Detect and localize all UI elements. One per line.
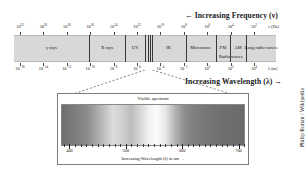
frequency-tick-label: 104 — [228, 24, 234, 29]
spectrum-bar: γ raysX raysUVIRMicrowaveFMAMLong radio … — [14, 35, 276, 62]
band-divider — [216, 35, 217, 62]
band-divider — [148, 35, 149, 62]
visible-minor-tick — [109, 144, 110, 147]
band-label-long-radio-waves: Long radio waves — [244, 45, 277, 50]
visible-minor-tick — [120, 144, 121, 147]
band-divider — [150, 35, 151, 62]
visible-minor-tick — [75, 144, 76, 147]
frequency-tick-label: 1022 — [16, 24, 23, 29]
visible-minor-tick — [86, 144, 87, 147]
visible-spectrum-gradient — [61, 104, 245, 146]
visible-minor-tick — [165, 144, 166, 147]
visible-minor-tick — [205, 144, 206, 147]
visible-minor-tick — [154, 144, 155, 147]
frequency-tick-label: 1016 — [86, 24, 93, 29]
visible-minor-tick — [210, 144, 211, 147]
visible-minor-tick — [227, 144, 228, 147]
visible-minor-tick — [98, 144, 99, 147]
frequency-tick-label: 106 — [204, 24, 210, 29]
visible-minor-tick — [199, 144, 200, 147]
visible-minor-tick — [233, 144, 234, 147]
frequency-tick-label: 1010 — [157, 24, 164, 29]
visible-minor-tick — [103, 144, 104, 147]
frequency-tick-label: 1014 — [110, 24, 117, 29]
frequency-tick-label: 1020 — [40, 24, 47, 29]
frequency-tick-label: 1012 — [133, 24, 140, 29]
visible-wavelength-axis: 400500600700 — [61, 144, 245, 152]
em-spectrum-figure: ← Increasing Frequency (ν) ν (Hz) 102210… — [0, 0, 306, 182]
visible-tick-label: 600 — [179, 148, 185, 153]
band-label-radio-waves: Radio waves — [219, 54, 243, 59]
visible-minor-tick — [177, 144, 178, 147]
visible-spectrum-caption: Increasing Wavelength (λ) in nm → — [58, 156, 248, 161]
band-divider — [145, 35, 146, 62]
frequency-tick-label: 1018 — [63, 24, 70, 29]
visible-minor-tick — [115, 144, 116, 147]
visible-minor-tick — [193, 144, 194, 147]
band-label-uv: UV — [132, 45, 139, 50]
visible-minor-tick — [216, 144, 217, 147]
visible-minor-tick — [148, 144, 149, 147]
visible-minor-tick — [64, 144, 65, 147]
visible-minor-tick — [143, 144, 144, 147]
frequency-axis-unit: ν (Hz) — [268, 24, 279, 29]
band-divider — [125, 35, 126, 62]
visible-minor-tick — [222, 144, 223, 147]
band-label-am: AM — [234, 45, 241, 50]
visible-spectrum-title: Visible spectrum — [58, 96, 248, 101]
band-label-x-rays: X rays — [101, 45, 113, 50]
visible-tick-label: 400 — [66, 148, 72, 153]
band-label-ir: IR — [166, 45, 171, 50]
band-label-fm: FM — [220, 45, 227, 50]
band-divider — [89, 35, 90, 62]
band-divider — [152, 35, 153, 62]
frequency-axis-arrow-label: ← Increasing Frequency (ν) — [185, 11, 278, 20]
band-label-microwave: Microwave — [190, 45, 211, 50]
visible-tick-label: 500 — [123, 148, 129, 153]
band-divider — [186, 35, 187, 62]
visible-tick-label: 700 — [235, 148, 241, 153]
visible-minor-tick — [131, 144, 132, 147]
image-credit: Philip Ronan / Wikipedia — [299, 88, 305, 147]
visible-minor-tick — [188, 144, 189, 147]
visible-minor-tick — [171, 144, 172, 147]
visible-minor-tick — [160, 144, 161, 147]
visible-spectrum-panel: Visible spectrum 400500600700 Increasing… — [57, 93, 249, 165]
band-label-rays: γ rays — [46, 45, 57, 50]
visible-minor-tick — [92, 144, 93, 147]
frequency-tick-label: 102 — [251, 24, 257, 29]
visible-minor-tick — [244, 144, 245, 147]
frequency-axis: ν (Hz) 102210201018101610141012101010810… — [14, 24, 276, 35]
visible-minor-tick — [81, 144, 82, 147]
frequency-tick-label: 108 — [181, 24, 187, 29]
visible-minor-tick — [137, 144, 138, 147]
